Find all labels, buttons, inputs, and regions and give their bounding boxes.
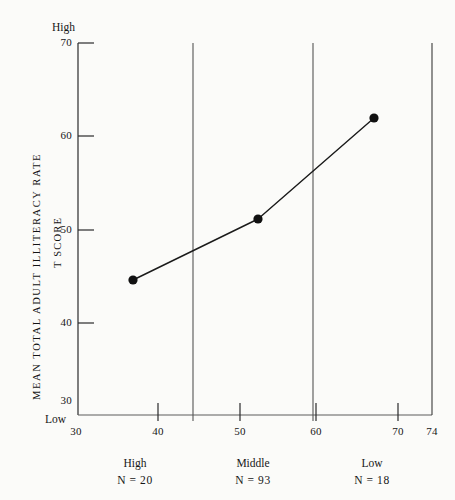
y-tick-marks xyxy=(78,43,94,323)
plot-area xyxy=(0,0,455,500)
data-point-low[interactable] xyxy=(369,113,378,122)
data-point-middle[interactable] xyxy=(253,214,262,223)
data-point-high[interactable] xyxy=(128,275,137,284)
x-tick-marks xyxy=(158,403,398,421)
data-series-line xyxy=(133,118,374,280)
group-divider-lines xyxy=(193,43,313,421)
chart-figure: MEAN TOTAL ADULT ILLITERACY RATE T SCORE… xyxy=(0,0,455,500)
